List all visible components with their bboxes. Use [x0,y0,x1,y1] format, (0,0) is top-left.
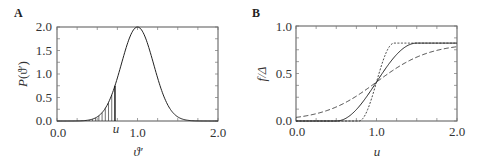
shaded-area-hatch [86,95,112,121]
panel-b-ticks [296,26,457,121]
b-ylabel: f/Δ [254,66,269,81]
a-xtick-2: 2.0 [210,125,226,140]
a-xtick-0: 0.0 [50,125,66,140]
a-xtick-1: 1.0 [129,125,145,140]
panel-a-label: A [14,6,23,20]
panel-a-frame [57,27,218,121]
b-xtick-2: 2.0 [449,124,465,139]
panel-b: B 0.0 0.5 1.0 0.0 1.0 2.0 u f/Δ [252,6,465,159]
b-xtick-0: 0.0 [289,124,305,139]
b-ytick-05: 0.5 [276,66,292,81]
panel-a: A 0.0 0.5 1.0 1.5 2.0 0.0 1.0 2.0 u ϑ′ P… [14,6,226,159]
panel-b-frame [296,26,457,121]
figure: A 0.0 0.5 1.0 1.5 2.0 0.0 1.0 2.0 u ϑ′ P… [0,0,477,162]
panel-a-ticks [57,27,218,121]
panel-b-label: B [252,6,260,20]
a-u-marker: u [113,121,120,136]
a-ylabel: P(ϑ′) [15,61,30,88]
b-ytick-1: 1.0 [276,19,292,34]
a-ytick-15: 1.5 [36,43,52,58]
curve-solid [296,43,457,121]
a-xlabel: ϑ′ [133,144,142,159]
a-ytick-05: 0.5 [36,90,52,105]
b-xlabel: u [374,144,381,159]
gaussian-curve [57,27,218,121]
a-ytick-2: 2.0 [36,19,52,34]
a-ytick-1: 1.0 [36,66,52,81]
b-xtick-1: 1.0 [368,124,384,139]
